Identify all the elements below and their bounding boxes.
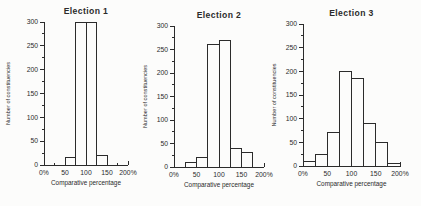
y-tick-label: 300 <box>157 22 169 29</box>
histogram-bar <box>185 162 196 167</box>
histogram-bar <box>364 123 376 166</box>
x-tick-label: 150 <box>370 170 382 177</box>
y-tick-label: 300 <box>286 20 298 27</box>
histogram-bar <box>339 71 351 166</box>
y-tick-label: 200 <box>286 68 298 75</box>
x-tick-label: 100 <box>80 169 92 176</box>
histogram-figure: 0501001502002503000%50100150200%Comparat… <box>0 0 421 206</box>
x-tick-label: 50 <box>61 169 69 176</box>
histogram-bar <box>86 22 97 165</box>
y-tick-label: 50 <box>30 137 38 144</box>
x-tick-label: 100 <box>346 170 358 177</box>
y-axis-label: Number of constituencies <box>5 62 11 125</box>
histogram-panel-2: 0501001502002503000%50100150200%Comparat… <box>142 10 273 189</box>
histogram-bar <box>197 158 208 167</box>
histogram-bar <box>65 158 76 165</box>
x-tick-label: 200% <box>119 169 136 176</box>
y-tick-label: 150 <box>27 90 39 97</box>
histogram-bar <box>76 22 87 165</box>
y-axis-label: Number of constituencies <box>271 63 277 126</box>
y-tick-label: 100 <box>157 116 169 123</box>
histogram-bar <box>303 161 315 166</box>
y-axis-label: Number of constituencies <box>142 65 148 128</box>
y-tick-label: 100 <box>286 115 298 122</box>
x-tick-label: 200% <box>391 170 408 177</box>
histogram-bar <box>376 142 388 166</box>
x-tick-label: 200% <box>255 171 272 178</box>
histogram-bar <box>208 45 219 167</box>
y-tick-label: 50 <box>160 140 168 147</box>
x-axis-label: Comparative percentage <box>51 179 121 187</box>
histogram-figure-wrap: 0501001502002503000%50100150200%Comparat… <box>0 0 421 206</box>
panel-title: Election 1 <box>64 6 109 16</box>
histogram-bar <box>327 133 339 166</box>
x-tick-label: 50 <box>193 171 201 178</box>
x-axis-label: Comparative percentage <box>317 180 387 188</box>
y-tick-label: 50 <box>289 139 297 146</box>
y-tick-label: 250 <box>157 46 169 53</box>
x-tick-label: 150 <box>236 171 248 178</box>
histogram-bar <box>219 40 230 167</box>
x-tick-label: 50 <box>323 170 331 177</box>
x-tick-label: 100 <box>213 171 225 178</box>
x-tick-label: 150 <box>101 169 113 176</box>
y-tick-label: 200 <box>157 69 169 76</box>
y-tick-label: 0 <box>164 163 168 170</box>
y-tick-label: 250 <box>27 42 39 49</box>
histogram-bar <box>352 78 364 166</box>
histogram-panel-1: 0501001502002503000%50100150200%Comparat… <box>5 6 137 187</box>
y-tick-label: 150 <box>157 93 169 100</box>
histogram-bar <box>242 153 253 167</box>
x-tick-label: 0% <box>169 171 179 178</box>
x-tick-label: 0% <box>298 170 308 177</box>
y-tick-label: 200 <box>27 66 39 73</box>
y-tick-label: 100 <box>27 114 39 121</box>
histogram-bar <box>97 155 108 165</box>
y-tick-label: 250 <box>286 44 298 51</box>
panel-title: Election 2 <box>197 10 242 20</box>
y-tick-label: 0 <box>293 162 297 169</box>
x-axis-label: Comparative percentage <box>184 181 254 189</box>
histogram-bar <box>315 154 327 166</box>
histogram-panel-3: 0501001502002503000%50100150200%Comparat… <box>271 8 409 188</box>
y-tick-label: 300 <box>27 18 39 25</box>
y-tick-label: 150 <box>286 91 298 98</box>
y-tick-label: 0 <box>34 161 38 168</box>
histogram-bar <box>230 148 241 167</box>
panel-title: Election 3 <box>329 8 374 18</box>
x-tick-label: 0% <box>39 169 49 176</box>
